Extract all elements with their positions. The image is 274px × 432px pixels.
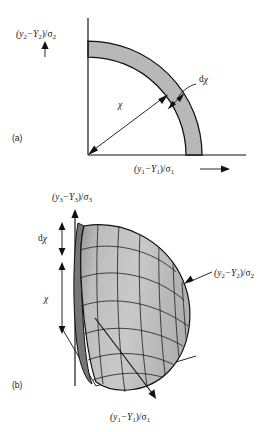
panel-a-yaxis-label: (y2−Y2)/σ2 [16,29,56,57]
panel-b-dchi-label: dχ [38,233,48,244]
svg-text:(y2−Y2)/σ2: (y2−Y2)/σ2 [16,29,56,40]
panel-a-id: (a) [12,133,23,143]
panel-b-chi-arrow [59,262,66,334]
panel-a-xaxis-arrow [200,166,230,173]
panel-b-zaxis-label: (y3−Y3)/σ3 [52,192,93,203]
panel-b-xaxis-label: (y1−Y1)/σ1 [110,412,150,423]
panel-a-yaxis-arrow [41,41,48,57]
panel-b-chi-label: χ [43,294,49,304]
svg-text:(y1−Y1)/σ1: (y1−Y1)/σ1 [134,164,174,175]
panel-b-dchi-chi: χ [42,234,48,244]
figure-svg: χ dχ (y2−Y2)/σ2 (y1−Y1)/σ1 [0,0,274,432]
panel-b: dχ χ (y3−Y3)/σ3 (y2−Y2)/σ2 (y1−Y1)/σ1 (b [12,192,254,423]
dchi-chi: χ [203,75,209,85]
panel-b-id: (b) [12,380,23,390]
panel-a: χ dχ (y2−Y2)/σ2 (y1−Y1)/σ1 [12,18,246,175]
chi-radius-arrow [88,95,168,156]
annulus-band [88,41,202,155]
panel-a-dchi-label: dχ [199,74,209,85]
panel-a-xaxis-label: (y1−Y1)/σ1 [134,164,230,175]
panel-b-dchi-arrow [59,222,66,256]
figure-container: χ dχ (y2−Y2)/σ2 (y1−Y1)/σ1 [0,0,274,432]
panel-a-chi-label: χ [117,100,123,110]
panel-b-yaxis-label: (y2−Y2)/σ2 [214,268,254,279]
svg-text:dχ: dχ [199,74,209,85]
panel-b-yaxis-arrow [184,272,212,284]
